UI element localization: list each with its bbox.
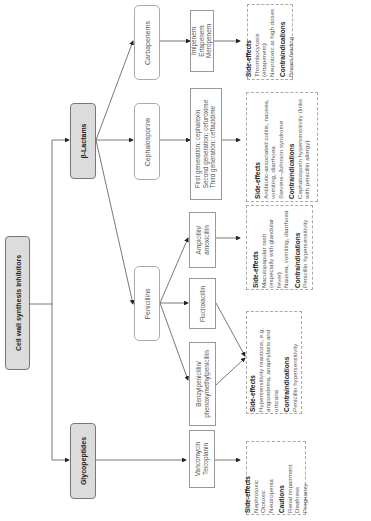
group-label: Glycopeptides — [80, 437, 87, 485]
class-carbapenems: Carbapenems — [134, 5, 160, 80]
drug-name: Meropenem — [206, 24, 214, 58]
note-heading: Cautions — [278, 443, 286, 513]
connector-lines — [0, 0, 371, 521]
notes-carbapenems: Side-effects Thrombocytosis (ertapenem) … — [247, 4, 293, 80]
note-item: Thrombocytosis (ertapenem) — [253, 7, 268, 77]
note-item: Pregnancy — [301, 443, 308, 513]
notes-glycopeptides: Side-effects Nephrotoxic Ototoxic Neutro… — [246, 441, 306, 515]
drugs-flucloxacillin: Flucloxacillin — [189, 278, 216, 329]
note-item: Hypersensitivity reactions, e.g. angioed… — [257, 314, 279, 412]
drugs-benzylpenicillin: Benzylpenicillin/ phenoxymethylpenicilli… — [189, 342, 216, 426]
note-item: Nausea, vomiting, diarrhoea — [281, 208, 288, 288]
drugs-carbapenems: Imipenem Ertapenem Meropenem — [190, 10, 214, 72]
drug-name: First generation: cephalexin — [194, 100, 202, 188]
note-heading: Contraindications — [288, 95, 296, 199]
note-heading: Side-effects — [245, 7, 253, 77]
drug-name: Flucloxacillin — [199, 285, 207, 321]
drugs-cephalosporins: First generation: cephalexin Second gene… — [190, 88, 222, 200]
class-label: Cephalosporins — [144, 117, 151, 166]
notes-ampicillin: Side-effects Maculopapular rash (especia… — [246, 205, 313, 290]
note-item: Neurotoxic at high doses — [268, 7, 275, 77]
drugs-glycopeptides: Vancomycin Teicoplanin — [189, 430, 215, 488]
note-heading: Side-effects — [251, 208, 259, 288]
drug-name: Vancomycin — [194, 442, 202, 476]
drug-name: phenoxymethylpenicillin — [203, 350, 211, 418]
drug-name: Ampicillin/ — [195, 225, 203, 254]
drug-name: amoxicillin — [203, 225, 211, 254]
note-item: Nephrotoxic — [252, 443, 259, 513]
note-item: Penicillin hypersensitivity — [300, 208, 307, 288]
note-heading: Contraindications — [283, 314, 291, 412]
note-item: Renal impairment — [286, 443, 293, 513]
note-item: Cephalosporin hypersensitivity (links wi… — [296, 95, 311, 199]
class-label: Carbapenems — [144, 21, 151, 65]
group-beta-lactams: β-Lactams — [70, 103, 96, 179]
class-penicillins: Penicillins — [134, 266, 160, 341]
notes-cephalosporins: Side-effects Antibiotic-associated colit… — [246, 92, 318, 202]
drug-name: Imipenem — [190, 24, 198, 58]
note-item: Neutropenia — [267, 443, 274, 513]
note-item: Maculopapular rash (especially with glan… — [259, 208, 281, 288]
drug-name: Second generation: cefuroxime — [202, 100, 210, 188]
note-heading: Side-effects — [244, 443, 252, 513]
drugs-ampicillin: Ampicillin/ amoxicillin — [189, 212, 216, 268]
note-item: Penicillin hypersensitivity — [291, 314, 298, 412]
drug-name: Benzylpenicillin/ — [195, 350, 203, 418]
note-heading: Side-effects — [249, 314, 257, 412]
root-label: Cell wall synthesis inhibitors — [14, 255, 21, 351]
note-item: Breast-feeding — [287, 7, 294, 77]
note-item: Antibiotic-associated colitis, nausea, v… — [261, 95, 276, 199]
class-label: Penicillins — [144, 288, 151, 319]
note-heading: Side-effects — [254, 95, 262, 199]
root-node: Cell wall synthesis inhibitors — [5, 236, 30, 370]
note-item: Ototoxic — [259, 443, 266, 513]
note-heading: Contraindications — [279, 7, 287, 77]
note-heading: Contraindications — [293, 208, 301, 288]
drug-name: Ertapenem — [198, 24, 206, 58]
group-glycopeptides: Glycopeptides — [70, 423, 96, 499]
note-item: Stevens–Johnson syndrome — [276, 95, 283, 199]
group-label: β-Lactams — [80, 123, 87, 158]
drug-name: Teicoplanin — [202, 442, 210, 476]
drug-name: Third generation: ceftazidime — [210, 100, 218, 188]
note-item: Deafness — [293, 443, 300, 513]
class-cephalosporins: Cephalosporins — [134, 103, 160, 180]
notes-penicillins-common: Side-effects Hypersensitivity reactions,… — [246, 311, 302, 414]
